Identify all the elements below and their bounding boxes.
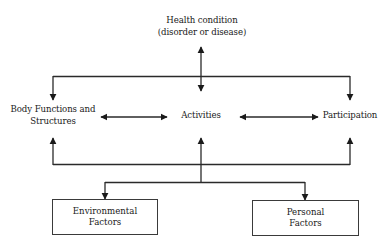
environmental-factors-box: Environmental Factors: [52, 199, 158, 235]
personal-line1: Personal: [287, 207, 325, 219]
health-condition-line1: Health condition: [152, 15, 252, 27]
icf-diagram: Health condition (disorder or disease) B…: [0, 0, 385, 246]
environmental-line1: Environmental: [73, 206, 137, 218]
participation-text: Participation: [320, 110, 380, 122]
body-functions-label: Body Functions and Structures: [6, 104, 100, 127]
body-functions-line1: Body Functions and: [6, 104, 100, 116]
body-functions-line2: Structures: [6, 116, 100, 128]
personal-line2: Factors: [289, 218, 321, 230]
personal-factors-box: Personal Factors: [252, 200, 359, 236]
participation-label: Participation: [320, 110, 380, 122]
activities-label: Activities: [171, 110, 231, 122]
health-condition-line2: (disorder or disease): [152, 27, 252, 39]
activities-text: Activities: [171, 110, 231, 122]
health-condition-label: Health condition (disorder or disease): [152, 15, 252, 38]
environmental-line2: Factors: [89, 217, 121, 229]
